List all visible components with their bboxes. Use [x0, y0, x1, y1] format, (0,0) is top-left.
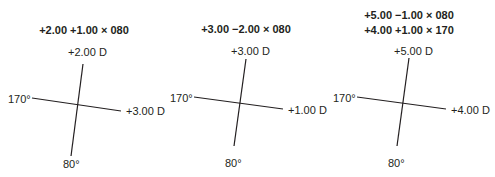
right-power-label: +4.00 D — [451, 104, 490, 116]
top-power-label: +2.00 D — [68, 46, 107, 58]
meridian-80-line-3 — [397, 58, 409, 146]
prescription-label: +2.00 +1.00 × 080 — [39, 23, 129, 37]
bottom-axis-label: 80° — [225, 157, 242, 169]
left-axis-label: 170° — [333, 92, 356, 104]
left-axis-label: 170° — [8, 93, 31, 105]
prescription-label: +5.00 −1.00 × 080 — [364, 8, 454, 22]
prescription-label-alt: +4.00 +1.00 × 170 — [364, 23, 454, 37]
top-power-label: +5.00 D — [394, 45, 433, 57]
meridian-80-line-1 — [71, 64, 83, 156]
bottom-axis-label: 80° — [63, 158, 80, 170]
right-power-label: +1.00 D — [288, 104, 327, 116]
meridian-170-line-2 — [194, 97, 283, 109]
prescription-label: +3.00 −2.00 × 080 — [201, 22, 291, 36]
left-axis-label: 170° — [170, 92, 193, 104]
right-power-label: +3.00 D — [126, 105, 165, 117]
top-power-label: +3.00 D — [231, 45, 270, 57]
bottom-axis-label: 80° — [388, 157, 405, 169]
meridian-170-line-1 — [32, 98, 121, 111]
meridian-170-line-3 — [357, 97, 446, 109]
